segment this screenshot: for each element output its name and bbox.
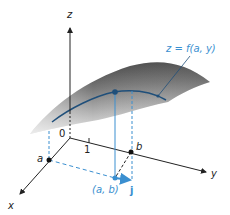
surface-partial-derivative-diagram: z y x 0 1 a b (a, b) j z = f(a, y) (0, 0, 230, 215)
z-axis-label: z (66, 9, 73, 20)
origin-label: 0 (59, 128, 65, 139)
point-ab-label: (a, b) (92, 184, 119, 195)
j-label: j (129, 185, 133, 196)
point-b (129, 150, 134, 155)
point-b-label: b (136, 141, 142, 152)
x-axis (20, 138, 70, 194)
line-b-to-ab (115, 152, 131, 178)
surface (30, 62, 210, 134)
point-ab (113, 176, 118, 181)
x-axis-label: x (7, 200, 14, 211)
line-a-to-ab (49, 160, 115, 178)
point-a-label: a (37, 153, 43, 164)
y-axis-label: y (210, 168, 218, 179)
curve-label: z = f(a, y) (165, 43, 216, 54)
point-on-surface (112, 89, 118, 95)
point-a (47, 158, 52, 163)
tick-1-label: 1 (84, 144, 90, 155)
